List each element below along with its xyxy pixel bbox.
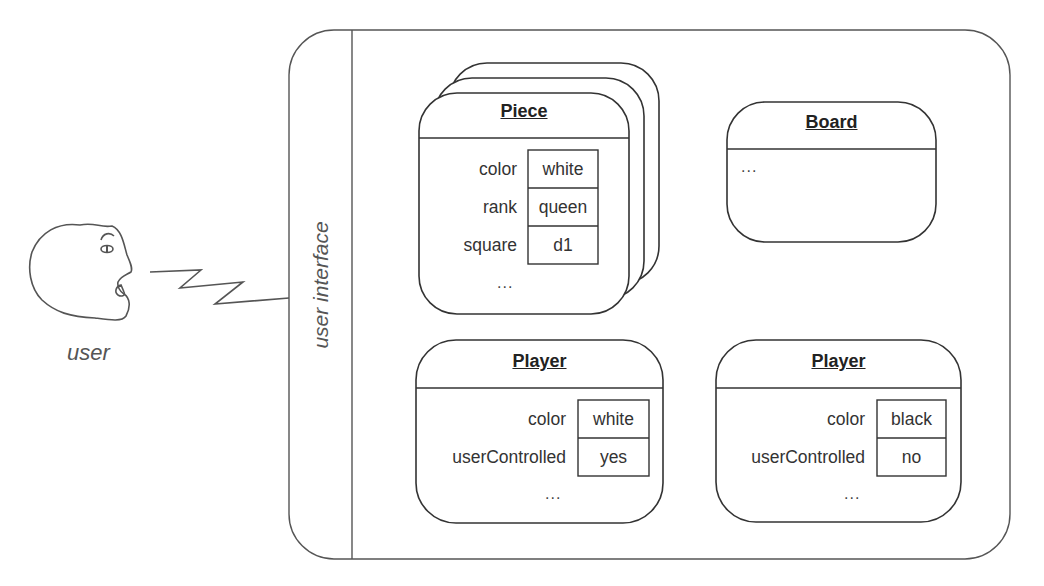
user-interface-label: user interface: [309, 221, 333, 348]
player-white-value-color: white: [578, 409, 649, 430]
piece-title: Piece: [419, 101, 629, 122]
piece-attr-color: color: [419, 159, 517, 180]
board-ellipsis: ...: [741, 158, 757, 176]
piece-value-square: d1: [528, 235, 598, 256]
piece-attr-rank: rank: [419, 197, 517, 218]
player-white-title: Player: [416, 351, 663, 372]
user-face-icon: [30, 224, 132, 320]
player-white-attr-color: color: [416, 409, 566, 430]
board-title: Board: [727, 112, 936, 133]
player-black-value-color: black: [877, 409, 946, 430]
player-white-value-usercontrolled: yes: [578, 447, 649, 468]
head-outline: [30, 224, 132, 320]
player-black-title: Player: [716, 351, 961, 372]
player-black-attr-color: color: [716, 409, 865, 430]
piece-value-rank: queen: [528, 197, 598, 218]
diagram-canvas: [0, 0, 1044, 586]
piece-attr-square: square: [419, 235, 517, 256]
player-black-value-usercontrolled: no: [877, 447, 946, 468]
piece-value-color: white: [528, 159, 598, 180]
player-black-attr-usercontrolled: userControlled: [716, 447, 865, 468]
eyebrow: [101, 234, 114, 240]
player-white-attr-usercontrolled: userControlled: [416, 447, 566, 468]
user-label: user: [67, 340, 110, 366]
piece-ellipsis: ...: [497, 274, 513, 292]
player-white-ellipsis: ...: [545, 485, 561, 503]
speech-zigzag: [150, 270, 289, 304]
player-black-ellipsis: ...: [844, 485, 860, 503]
